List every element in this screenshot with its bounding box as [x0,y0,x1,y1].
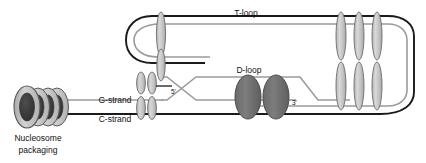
tall-junction-protein [156,12,165,81]
d-loop-protein [263,75,289,119]
telomere-protein-triplet [336,12,382,110]
junction-protein [148,72,157,94]
three-prime-label: 3' [292,99,297,106]
telomere-diagram: T-loop D-loop G-strand C-strand 5' 3' Nu… [0,0,426,163]
c-strand-label: C-strand [99,114,132,124]
telomere-protein [372,12,382,110]
d-loop-protein [235,75,261,119]
nucleosome-label-line1: Nucleosome [14,133,62,143]
junction-protein [148,97,157,120]
g-strand-label: G-strand [98,95,131,105]
d-loop-label: D-loop [236,65,261,75]
junction-protein [137,72,146,94]
figure-canvas: T-loop D-loop G-strand C-strand 5' 3' Nu… [0,0,426,163]
nucleosome-label-line2: packaging [19,145,58,155]
junction-protein-cluster [137,72,157,120]
telomere-protein [336,12,346,110]
d-loop-protein-pair [235,75,289,119]
nucleosome-stack [14,86,69,128]
junction-protein [137,97,146,120]
t-loop-label: T-loop [234,8,258,18]
telomere-protein [354,12,364,110]
five-prime-label: 5' [171,88,176,95]
nucleosome-disc [14,86,40,128]
